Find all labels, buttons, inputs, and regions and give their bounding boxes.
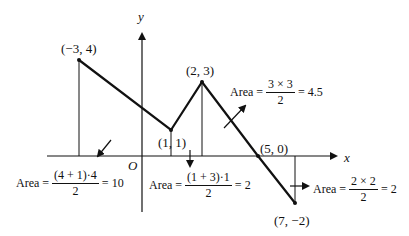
point-label: (−3, 4) (61, 42, 97, 55)
area-prefix: Area = (16, 176, 49, 191)
numerator: 2 × 2 (349, 175, 378, 190)
area-prefix: Area = (313, 182, 346, 197)
fraction: 2 × 2 2 (349, 175, 378, 204)
denominator: 2 (205, 186, 211, 200)
numerator: (1 + 3)·1 (185, 171, 232, 186)
denominator: 2 (72, 184, 78, 198)
denominator: 2 (277, 93, 283, 107)
area-prefix: Area = (149, 178, 182, 193)
area-equation: Area = 3 × 3 2 = 4.5 (230, 78, 323, 107)
area-result: = 2 (381, 182, 397, 197)
point-label: (5, 0) (260, 142, 288, 155)
point-label: (2, 3) (186, 64, 214, 77)
point-1-1 (169, 128, 173, 132)
numerator: 3 × 3 (266, 78, 295, 93)
point-7-neg2 (293, 201, 297, 205)
area-result: = 10 (102, 176, 124, 191)
point-label: (7, −2) (274, 214, 310, 227)
area-prefix: Area = (230, 85, 263, 100)
numerator: (4 + 1)·4 (52, 169, 99, 184)
origin-label: O (128, 159, 137, 172)
area-equation: Area = (1 + 3)·1 2 = 2 (149, 171, 251, 200)
point-label: (1, 1) (158, 136, 186, 149)
area-equation: Area = (4 + 1)·4 2 = 10 (16, 169, 124, 198)
x-axis-label: x (344, 151, 350, 164)
fraction: (1 + 3)·1 2 (185, 171, 232, 200)
fraction: 3 × 3 2 (266, 78, 295, 107)
arrow-area-1 (98, 140, 111, 156)
area-result: = 4.5 (298, 85, 323, 100)
area-equation: Area = 2 × 2 2 = 2 (313, 175, 397, 204)
point-2-3 (200, 80, 204, 84)
area-result: = 2 (235, 178, 251, 193)
point-neg3-4 (77, 58, 81, 62)
fraction: (4 + 1)·4 2 (52, 169, 99, 198)
y-axis-label: y (138, 10, 144, 23)
denominator: 2 (360, 190, 366, 204)
